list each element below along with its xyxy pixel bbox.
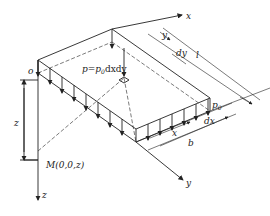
point-load-label: p=p0dxdy [82,64,128,75]
origin-label: o [28,66,34,76]
z-axis-label: z [41,190,47,200]
diagram-canvas: o x y z z M(0,0,z) p=p0dxdy p0 y dy l x … [0,0,270,216]
load-block [38,29,210,142]
point-m-label: M(0,0,z) [45,160,85,170]
depth-label: z [13,118,19,128]
depth-dimension [20,80,38,160]
dim-b-label: b [188,138,194,148]
y-axis [136,142,183,180]
x-axis [112,15,182,29]
x-axis-label: x [186,11,191,21]
dim-l-label: l [196,50,199,60]
dim-x-label: x [172,128,177,138]
dim-dx-label: dx [204,116,215,126]
bottom-dimensions [136,88,270,150]
pressure-label: p0 [212,100,222,111]
dim-dy-label: dy [176,48,188,58]
y-axis-label: y [185,178,192,188]
dim-y-label: y [161,30,168,40]
